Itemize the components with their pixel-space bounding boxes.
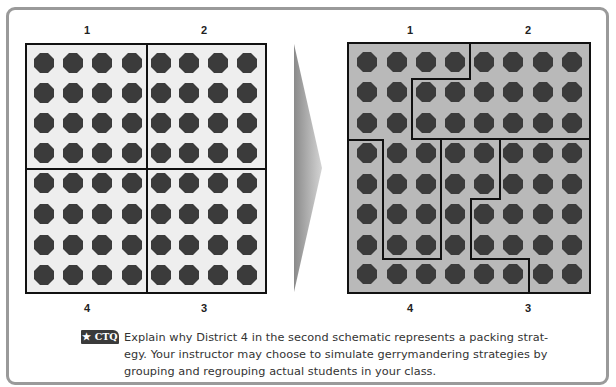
voter-dot-district-3 — [208, 173, 228, 193]
voter-dot-district-4 — [92, 204, 112, 224]
voter-dot-district-2 — [237, 53, 257, 73]
voter-dot-district-1 — [387, 113, 407, 133]
voter-dot-district-3 — [533, 264, 553, 284]
voter-dot-district-1 — [416, 174, 436, 194]
voter-dot-district-4 — [122, 265, 142, 285]
caption-line: egy. Your instructor may choose to simul… — [124, 346, 594, 363]
voter-dot-district-1 — [357, 82, 377, 102]
voter-dot-district-2 — [151, 143, 171, 163]
voter-dot-district-3 — [179, 173, 199, 193]
voter-dot-district-1 — [387, 174, 407, 194]
voter-dot-district-1 — [34, 83, 54, 103]
voter-dot-district-1 — [387, 235, 407, 255]
voter-dot-district-3 — [237, 204, 257, 224]
district-boundary — [382, 258, 442, 260]
voter-dot-district-3 — [533, 235, 553, 255]
voter-dot-district-1 — [416, 204, 436, 224]
voter-dot-district-4 — [445, 143, 465, 163]
voter-dot-district-3 — [237, 235, 257, 255]
district-boundary — [470, 198, 472, 260]
voter-dot-district-3 — [562, 264, 582, 284]
voter-dot-district-4 — [92, 173, 112, 193]
voter-dot-district-1 — [416, 235, 436, 255]
voter-dot-district-1 — [122, 83, 142, 103]
voter-dot-district-3 — [562, 235, 582, 255]
voter-dot-district-2 — [208, 113, 228, 133]
voter-dot-district-4 — [503, 264, 523, 284]
voter-dot-district-3 — [208, 265, 228, 285]
voter-dot-district-4 — [34, 235, 54, 255]
voter-dot-district-1 — [122, 113, 142, 133]
voter-dot-district-4 — [474, 264, 494, 284]
voter-dot-district-2 — [151, 83, 171, 103]
voter-dot-district-1 — [92, 53, 112, 73]
voter-dot-district-1 — [387, 143, 407, 163]
left-district-label-2: 2 — [201, 24, 207, 36]
right-schematic-grid — [347, 42, 591, 294]
caption-line: Explain why District 4 in the second sch… — [124, 329, 594, 346]
voter-dot-district-1 — [34, 53, 54, 73]
voter-dot-district-4 — [34, 173, 54, 193]
voter-dot-district-1 — [63, 83, 83, 103]
voter-dot-district-1 — [92, 143, 112, 163]
voter-dot-district-2 — [533, 82, 553, 102]
right-district-label-1: 1 — [407, 24, 413, 36]
right-arrow-icon — [294, 44, 324, 292]
voter-dot-district-2 — [237, 143, 257, 163]
voter-dot-district-4 — [416, 264, 436, 284]
voter-dot-district-2 — [503, 52, 523, 72]
voter-dot-district-2 — [151, 113, 171, 133]
voter-dot-district-2 — [474, 52, 494, 72]
left-district-label-4: 4 — [84, 302, 90, 314]
voter-dot-district-4 — [34, 265, 54, 285]
voter-dot-district-3 — [237, 265, 257, 285]
voter-dot-district-1 — [357, 52, 377, 72]
voter-dot-district-3 — [237, 173, 257, 193]
voter-dot-district-1 — [92, 83, 112, 103]
voter-dot-district-4 — [357, 174, 377, 194]
voter-dot-district-2 — [179, 113, 199, 133]
voter-dot-district-2 — [533, 52, 553, 72]
voter-dot-district-4 — [63, 235, 83, 255]
district-boundary — [528, 258, 530, 292]
voter-dot-district-1 — [387, 82, 407, 102]
left-schematic-grid — [25, 43, 267, 294]
voter-dot-district-4 — [92, 235, 112, 255]
voter-dot-district-3 — [562, 174, 582, 194]
voter-dot-district-3 — [151, 204, 171, 224]
voter-dot-district-3 — [179, 204, 199, 224]
voter-dot-district-3 — [533, 143, 553, 163]
voter-dot-district-4 — [122, 173, 142, 193]
voter-dot-district-2 — [179, 53, 199, 73]
voter-dot-district-2 — [416, 113, 436, 133]
voter-dot-district-4 — [122, 204, 142, 224]
voter-dot-district-3 — [503, 235, 523, 255]
voter-dot-district-4 — [63, 204, 83, 224]
voter-dot-district-1 — [63, 53, 83, 73]
voter-dot-district-4 — [63, 173, 83, 193]
district-boundary — [470, 258, 530, 260]
voter-dot-district-1 — [34, 143, 54, 163]
voter-dot-district-3 — [208, 235, 228, 255]
voter-dot-district-2 — [562, 52, 582, 72]
voter-dot-district-1 — [34, 113, 54, 133]
voter-dot-district-3 — [151, 173, 171, 193]
voter-dot-district-3 — [208, 204, 228, 224]
left-district-label-3: 3 — [201, 302, 207, 314]
voter-dot-district-4 — [474, 174, 494, 194]
voter-dot-district-2 — [179, 83, 199, 103]
voter-dot-district-2 — [416, 82, 436, 102]
voter-dot-district-4 — [445, 264, 465, 284]
voter-dot-district-3 — [151, 265, 171, 285]
voter-dot-district-2 — [474, 82, 494, 102]
district-boundary — [499, 139, 501, 200]
voter-dot-district-2 — [179, 143, 199, 163]
voter-dot-district-4 — [122, 235, 142, 255]
voter-dot-district-2 — [562, 113, 582, 133]
voter-dot-district-2 — [562, 82, 582, 102]
district-boundary — [349, 139, 384, 141]
right-district-label-3: 3 — [525, 302, 531, 314]
voter-dot-district-3 — [562, 204, 582, 224]
voter-dot-district-4 — [357, 143, 377, 163]
voter-dot-district-4 — [445, 174, 465, 194]
